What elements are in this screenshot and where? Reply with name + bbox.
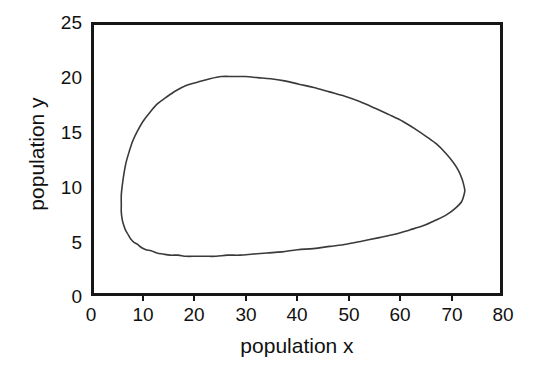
x-axis-title: population x [91,334,503,358]
y-tick-label-5: 5 [36,233,82,252]
x-tick-label-80: 80 [480,305,526,324]
y-tick-label-15: 15 [36,123,82,142]
x-tick-label-60: 60 [377,305,423,324]
x-tick-label-40: 40 [274,305,320,324]
plot-frame [91,22,503,296]
x-tick-label-50: 50 [326,305,372,324]
phase-portrait-figure: population y 25 20 15 10 5 0 0 10 20 30 … [0,0,537,385]
orbit-curve-svg [94,25,506,299]
x-tick-label-70: 70 [429,305,475,324]
y-tick-label-20: 20 [36,68,82,87]
y-tick-label-10: 10 [36,178,82,197]
x-tick-label-20: 20 [171,305,217,324]
y-tick-label-0: 0 [36,287,82,306]
orbit-curve [121,76,465,256]
x-tick-label-30: 30 [223,305,269,324]
x-tick-label-0: 0 [68,305,114,324]
y-tick-label-25: 25 [36,13,82,32]
x-tick-label-10: 10 [120,305,166,324]
